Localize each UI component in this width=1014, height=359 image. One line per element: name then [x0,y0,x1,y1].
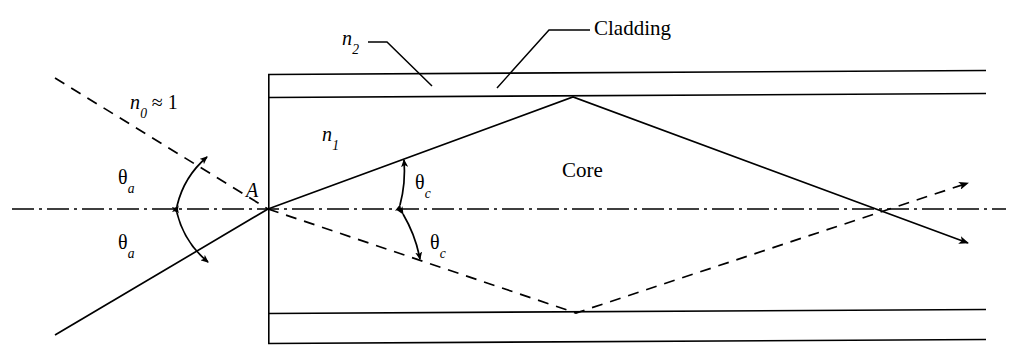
label-point-a: A [246,180,258,200]
core-bottom-boundary-line [268,310,986,314]
optical-fiber-diagram: n0 ≈ 1 n1 n2 Cladding Core A θa θa θc θc [0,0,1014,359]
label-core: Core [562,160,603,181]
theta-a-upper-arc [177,157,207,206]
label-n1: n1 [322,124,339,149]
incident-solid-ray [55,209,268,335]
fiber-boundaries [268,71,986,344]
theta-c-lower-arc [403,214,420,259]
cladding-leader-line [497,30,590,88]
label-cladding: Cladding [594,18,671,39]
core-top-boundary-line [268,94,986,98]
guided-solid-ray [268,97,968,243]
label-theta-c-upper: θc [415,172,431,197]
label-n0: n0 ≈ 1 [130,92,178,117]
cladding-top-outer-line [268,71,986,75]
n2-leader-line [368,42,432,86]
theta-a-lower-arc [177,213,208,262]
theta-c-upper-arc [400,160,404,205]
label-theta-a-upper: θa [118,167,134,192]
diagram-canvas [0,0,1014,359]
label-n2: n2 [342,28,359,53]
label-theta-a-lower: θa [118,232,134,257]
cladding-bottom-outer-line [268,340,986,344]
guided-dashed-ray [268,183,968,313]
label-theta-c-lower: θc [430,232,446,257]
